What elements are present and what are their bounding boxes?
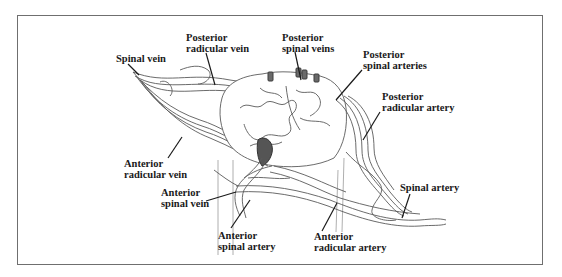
label-text-line2: spinal artery <box>218 242 275 253</box>
label-text-line2: spinal veins <box>282 44 334 55</box>
label-text: Spinal artery <box>400 183 459 194</box>
leader-anterior-radicular-artery <box>322 203 337 231</box>
label-anterior-radicular-artery: Anterior radicular artery <box>314 232 386 253</box>
label-text-line2: radicular vein <box>186 44 249 55</box>
label-spinal-vein: Spinal vein <box>116 54 166 65</box>
label-text-line2: radicular vein <box>124 170 187 181</box>
anterior-spinal-vessels <box>214 158 272 218</box>
label-text-line1: Anterior <box>218 231 275 242</box>
right-vessel-bundle <box>336 96 412 221</box>
leader-spinal-vein <box>128 64 139 75</box>
label-text-line1: Posterior <box>363 50 427 61</box>
label-text-line1: Anterior <box>124 159 187 170</box>
label-text-line1: Posterior <box>186 33 249 44</box>
spinal-cord-cross-section <box>220 72 347 167</box>
leader-posterior-spinal-arteries <box>336 70 362 100</box>
label-text-line2: radicular artery <box>382 103 454 114</box>
leader-anterior-spinal-artery <box>231 200 250 228</box>
label-posterior-radicular-vein: Posterior radicular vein <box>186 33 249 54</box>
label-spinal-artery: Spinal artery <box>400 183 459 194</box>
spinal-cord-vasculature-illustration <box>0 0 562 277</box>
label-text-line1: Posterior <box>382 92 454 103</box>
label-anterior-spinal-artery: Anterior spinal artery <box>218 231 275 252</box>
label-posterior-spinal-arteries: Posterior spinal arteries <box>363 50 427 71</box>
label-text-line2: spinal vein <box>161 199 209 210</box>
label-anterior-radicular-vein: Anterior radicular vein <box>124 159 187 180</box>
label-text: Spinal vein <box>116 54 166 65</box>
anterior-radicular-artery-vessel <box>236 166 446 226</box>
label-text-line2: radicular artery <box>314 243 386 254</box>
label-text-line1: Anterior <box>314 232 386 243</box>
leader-anterior-radicular-vein <box>168 137 182 158</box>
leader-anterior-spinal-vein <box>206 192 236 201</box>
label-posterior-spinal-veins: Posterior spinal veins <box>282 33 334 54</box>
label-text-line1: Posterior <box>282 33 334 44</box>
leader-posterior-radicular-artery <box>363 112 380 140</box>
label-text-line1: Anterior <box>161 188 209 199</box>
label-posterior-radicular-artery: Posterior radicular artery <box>382 92 454 113</box>
label-text-line2: spinal arteries <box>363 61 427 72</box>
label-anterior-spinal-vein: Anterior spinal vein <box>161 188 209 209</box>
